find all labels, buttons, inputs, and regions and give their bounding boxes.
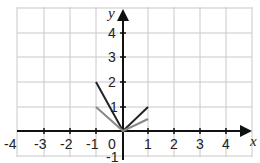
- y-arrow-icon: [117, 9, 129, 21]
- y-tick-label: 3: [108, 49, 116, 65]
- y-tick-label: 1: [110, 99, 118, 115]
- chart-svg: -4 -3 -2 -1 0 1 2 3 4 4 3 2 1 -1 y x: [0, 0, 260, 163]
- x-tick-label: 3: [196, 136, 204, 152]
- y-tick-label: 4: [108, 25, 116, 41]
- x-tick-label: -1: [86, 136, 99, 152]
- x-axis-label: x: [249, 133, 257, 149]
- x-tick-label: -3: [34, 136, 47, 152]
- x-tick-label: -2: [60, 136, 73, 152]
- y-tick-label: 2: [108, 74, 116, 90]
- x-tick-label: 1: [144, 136, 152, 152]
- y-tick-label: -1: [106, 149, 119, 163]
- axes: [17, 18, 243, 160]
- y-axis-label: y: [106, 5, 115, 21]
- x-tick-label: 4: [222, 136, 230, 152]
- grid: [17, 7, 252, 157]
- x-tick-label: -4: [4, 136, 17, 152]
- x-tick-label: 2: [170, 136, 178, 152]
- coordinate-plane-chart: -4 -3 -2 -1 0 1 2 3 4 4 3 2 1 -1 y x: [0, 0, 260, 163]
